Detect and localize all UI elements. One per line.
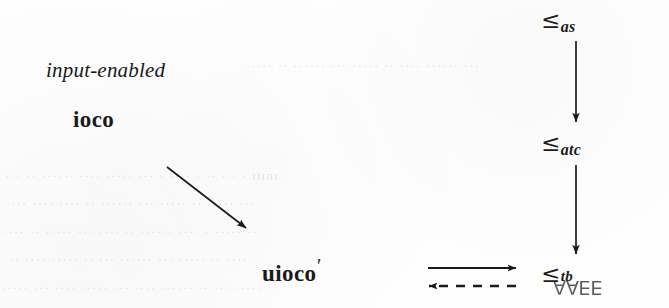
relation-as: ≤as <box>541 8 576 35</box>
less-equal-icon: ≤ <box>541 261 560 287</box>
node-ioco: ioco <box>73 108 114 131</box>
bleed-through-line: ····· ··· ·· ······ ···· ··· ····· ···· … <box>0 280 261 296</box>
bleed-through-line: ·· ····· · ···· ······ ·· ···· ··· ·····… <box>2 224 257 240</box>
node-uioco-prime: uioco′ <box>262 256 322 285</box>
edge-ioco-to-uioco <box>167 167 246 228</box>
bleed-through-line: ···· ·· ····· ··· ······ ··· ·· ····· ··… <box>8 252 247 268</box>
bleed-through-line: ··· ······ ···· ·· ····· ··· ······ ·· ·… <box>250 58 479 74</box>
relation-as-subscript: as <box>560 18 575 35</box>
bleed-through-line: ··· ····· ·· ····· ··· ······ ·· ···· ··… <box>10 196 255 212</box>
prime-mark: ′ <box>316 255 321 277</box>
less-equal-icon: ≤ <box>541 7 560 33</box>
node-uioco-label: uioco <box>262 261 316 286</box>
relation-atc-subscript: atc <box>560 141 581 158</box>
less-equal-icon: ≤ <box>541 130 560 156</box>
node-input-enabled: input-enabled <box>46 60 165 81</box>
bleed-through-line: ınıtı · ··· ·· · ···· · ··· ····· ···· ·… <box>4 168 278 184</box>
relation-hierarchy-figure: ınıtı · ··· ·· · ···· · ··· ····· ···· ·… <box>0 0 669 308</box>
relation-tb-subscript: tb <box>560 268 573 284</box>
relation-tb: ≤tb <box>541 262 573 286</box>
relation-atc: ≤atc <box>541 131 581 158</box>
